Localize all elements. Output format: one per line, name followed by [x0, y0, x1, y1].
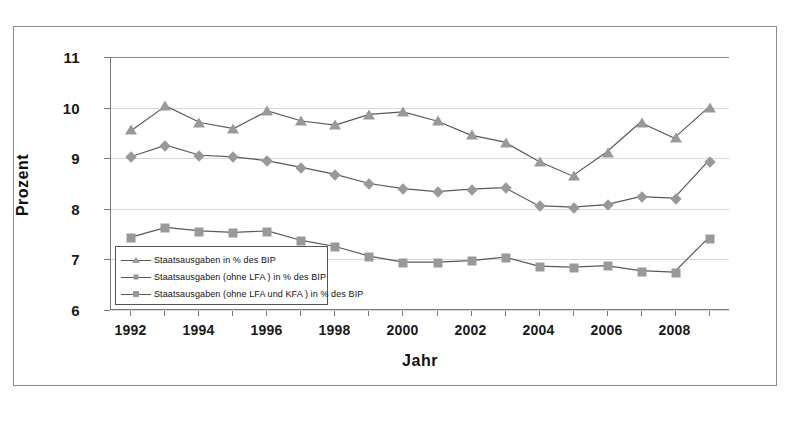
- chart-page: Prozent Jahr 67891011 199219941996199820…: [0, 0, 804, 421]
- data-point-triangle: [159, 101, 171, 111]
- data-point-square: [331, 243, 340, 252]
- x-tick-label: 2008: [659, 322, 691, 338]
- data-point-triangle: [295, 116, 307, 126]
- legend-item-2: Staatsausgaben (ohne LFA und KFA ) in % …: [121, 285, 322, 302]
- x-tick-label: 1996: [250, 322, 282, 338]
- x-tick-label: 1992: [114, 322, 146, 338]
- data-point-square: [195, 227, 204, 236]
- data-point-triangle: [636, 117, 648, 127]
- data-point-square: [501, 253, 510, 262]
- y-tick-label: 8: [20, 200, 80, 217]
- y-tick-label: 11: [20, 49, 80, 66]
- y-tick-label: 10: [20, 99, 80, 116]
- x-tick-label: 2004: [523, 322, 555, 338]
- legend-swatch-diamond: [121, 271, 151, 283]
- x-tick-label: 2000: [387, 322, 419, 338]
- data-point-triangle: [534, 156, 546, 166]
- data-point-triangle: [704, 103, 716, 113]
- data-point-square: [365, 252, 374, 261]
- data-point-triangle: [500, 137, 512, 147]
- data-point-triangle: [432, 116, 444, 126]
- legend-label-1: Staatsausgaben (ohne LFA ) in % des BIP: [154, 272, 326, 282]
- y-tick-label: 6: [20, 302, 80, 319]
- legend-item-1: Staatsausgaben (ohne LFA ) in % des BIP: [121, 268, 322, 285]
- x-tick-label: 2006: [591, 322, 623, 338]
- data-point-square: [127, 233, 136, 242]
- data-point-square: [671, 269, 680, 278]
- data-point-triangle: [602, 147, 614, 157]
- data-point-triangle: [397, 107, 409, 117]
- x-tick-label: 2002: [455, 322, 487, 338]
- y-tick-label: 9: [20, 150, 80, 167]
- data-point-square: [263, 227, 272, 236]
- data-point-square: [297, 237, 306, 246]
- data-point-triangle: [466, 130, 478, 140]
- data-point-square: [535, 262, 544, 271]
- series-line-1: [132, 145, 708, 207]
- legend-swatch-square: [121, 288, 151, 300]
- data-point-square: [399, 258, 408, 267]
- data-point-triangle: [227, 123, 239, 133]
- data-point-triangle: [193, 117, 205, 127]
- data-point-triangle: [125, 125, 137, 135]
- x-tick-label: 1998: [318, 322, 350, 338]
- y-tick-mark: [104, 310, 110, 311]
- data-point-square: [705, 235, 714, 244]
- data-point-square: [603, 262, 612, 271]
- legend-label-0: Staatsausgaben in % des BIP: [154, 255, 276, 265]
- data-point-square: [467, 257, 476, 266]
- y-tick-label: 7: [20, 251, 80, 268]
- legend: Staatsausgaben in % des BIP Staatsausgab…: [115, 246, 328, 305]
- legend-item-0: Staatsausgaben in % des BIP: [121, 251, 322, 268]
- data-point-square: [229, 229, 238, 238]
- x-axis-title: Jahr: [402, 352, 438, 370]
- x-tick-label: 1994: [182, 322, 214, 338]
- data-point-square: [161, 224, 170, 233]
- legend-swatch-triangle: [121, 254, 151, 266]
- data-point-triangle: [363, 109, 375, 119]
- data-point-square: [569, 264, 578, 273]
- data-point-square: [637, 267, 646, 276]
- legend-label-2: Staatsausgaben (ohne LFA und KFA ) in % …: [154, 289, 363, 299]
- data-point-square: [433, 258, 442, 267]
- data-point-triangle: [329, 120, 341, 130]
- data-point-triangle: [261, 106, 273, 116]
- data-point-triangle: [670, 133, 682, 143]
- gridline-6: [111, 310, 729, 311]
- data-point-triangle: [568, 171, 580, 181]
- series-line-0: [132, 106, 708, 176]
